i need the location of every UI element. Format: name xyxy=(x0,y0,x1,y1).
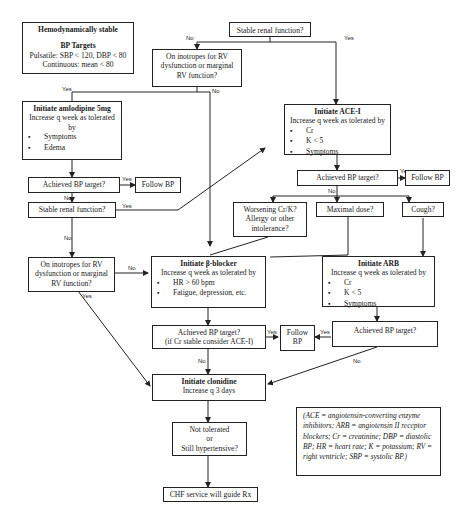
amlo-follow-bp: Follow BP xyxy=(135,177,181,193)
beta-bp-question: Achieved BP target? (if Cr stable consid… xyxy=(152,325,266,349)
clonidine-box: Initiate clonidine Increase q 3 days xyxy=(152,374,266,401)
amlodipine-box: Initiate amlodipine 5mg Increase q week … xyxy=(22,101,122,160)
ace-subtitle: Increase q week as tolerated by xyxy=(288,116,387,125)
amlodipine-title: Initiate amlodipine 5mg xyxy=(26,104,118,113)
label-no: No xyxy=(198,358,206,364)
not-tolerated-line3: Still hypertensive? xyxy=(176,444,243,453)
beta-subtitle: Increase q week as tolerated by xyxy=(155,268,262,277)
beta-title: Initiate β-blocker xyxy=(155,259,262,268)
arb-subtitle: Increase q week as tolerated by xyxy=(326,268,431,277)
label-yes: Yes xyxy=(62,86,72,92)
label-yes: Yes xyxy=(122,176,132,182)
amlodipine-subtitle: Increase q week as tolerated by xyxy=(26,113,118,132)
arb-bp-question: Achieved BP target? xyxy=(332,321,438,347)
cough-question: Cough? xyxy=(402,202,444,217)
arb-box: Initiate ARB Increase q week as tolerate… xyxy=(322,256,435,307)
label-no: No xyxy=(64,235,72,241)
amlo-bp-question: Achieved BP target? xyxy=(28,177,120,193)
ace-item: Symptoms xyxy=(306,147,387,157)
label-yes: Yes xyxy=(344,35,354,41)
label-no: No xyxy=(64,195,72,201)
inotropes-mid: On inotropes for RV dysfunction or margi… xyxy=(28,257,115,292)
ace-box: Initiate ACE-I Increase q week as tolera… xyxy=(284,104,391,155)
stable-renal-top: Stable renal function? xyxy=(229,22,311,37)
clonidine-subtitle: Increase q 3 days xyxy=(156,386,262,395)
beta-blocker-box: Initiate β-blocker Increase q week as to… xyxy=(151,256,266,308)
inotropes-top: On inotropes for RV dysfunction or margi… xyxy=(152,49,242,87)
label-yes: Yes xyxy=(122,203,132,209)
bp-pulsatile: Pulsatile: SBP < 120, DBP < 80 xyxy=(26,51,130,60)
beta-item: Fatigue, depression, etc. xyxy=(173,288,262,298)
label-no: No xyxy=(186,35,194,41)
start-box: Hemodynamically stable BP Targets Pulsat… xyxy=(22,22,134,74)
beta-bp-line2: (if Cr stable consider ACE-I) xyxy=(156,337,262,346)
beta-bp-line1: Achieved BP target? xyxy=(156,328,262,337)
beta-item: HR > 60 bpm xyxy=(173,278,262,288)
label-no: No xyxy=(353,358,361,364)
clonidine-title: Initiate clonidine xyxy=(156,377,262,386)
label-yes: Yes xyxy=(320,329,330,335)
label-no: No xyxy=(212,88,220,94)
label-yes: Yes xyxy=(267,329,277,335)
not-tolerated-question: Not tolerated or Still hypertensive? xyxy=(172,422,247,456)
ace-item: K < 5 xyxy=(306,136,387,146)
stable-renal-mid: Stable renal function? xyxy=(28,202,116,218)
bp-targets-title: BP Targets xyxy=(26,41,130,50)
not-tolerated-line1: Not tolerated xyxy=(176,425,243,434)
bp-continuous: Continuous: mean < 80 xyxy=(26,60,130,69)
chf-service-box: CHF service will guide Rx xyxy=(163,487,258,502)
ace-follow-bp: Follow BP xyxy=(405,170,450,186)
arb-item: Symptoms xyxy=(344,299,431,309)
ace-title: Initiate ACE-I xyxy=(288,107,387,116)
label-no: No xyxy=(328,188,336,194)
amlodipine-item: Symptoms xyxy=(44,132,118,142)
not-tolerated-line2: or xyxy=(176,434,243,443)
ace-bp-question: Achieved BP target? xyxy=(297,170,398,186)
maximal-dose-question: Maximal dose? xyxy=(316,202,384,217)
label-no: No xyxy=(128,265,136,271)
arb-title: Initiate ARB xyxy=(326,259,431,268)
abbreviations-legend: (ACE = angiotensin-converting enzyme inh… xyxy=(296,407,441,476)
center-follow-bp: Follow BP xyxy=(280,325,315,351)
worsening-question: Worsening Cr/K? Allergy or other intoler… xyxy=(233,202,307,237)
ace-item: Cr xyxy=(306,126,387,136)
arb-item: K < 5 xyxy=(344,288,431,298)
amlodipine-item: Edema xyxy=(44,143,118,153)
label-yes: Yes xyxy=(82,293,92,299)
arb-item: Cr xyxy=(344,278,431,288)
start-title: Hemodynamically stable xyxy=(26,25,130,34)
